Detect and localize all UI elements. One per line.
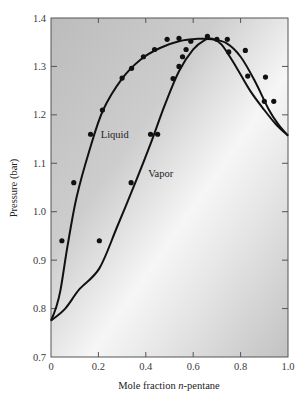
- y-tick-label: 1.3: [33, 61, 46, 72]
- x-tick-label: 0.4: [139, 361, 153, 372]
- data-point: [183, 47, 188, 52]
- x-tick-label: 0.2: [92, 361, 105, 372]
- data-point: [226, 49, 231, 54]
- phase-diagram-chart: 00.20.40.60.81.00.70.80.91.01.11.21.31.4…: [0, 0, 308, 407]
- data-point: [263, 74, 268, 79]
- y-tick-label: 1.4: [33, 13, 47, 24]
- data-point: [180, 54, 185, 59]
- data-point: [188, 39, 193, 44]
- data-point: [155, 132, 160, 137]
- y-axis-title: Pressure (bar): [8, 158, 20, 217]
- data-point: [129, 180, 134, 185]
- y-tick-label: 0.7: [33, 352, 46, 363]
- x-axis-title-part1: Mole fraction: [118, 380, 178, 391]
- data-point: [176, 36, 181, 41]
- y-tick-label: 0.9: [33, 255, 46, 266]
- data-point: [245, 74, 250, 79]
- x-tick-label: 1.0: [281, 361, 294, 372]
- plot-area: [51, 18, 288, 357]
- x-axis-title: Mole fraction n-pentane: [118, 380, 220, 391]
- liquid-label: Liquid: [101, 129, 130, 140]
- data-point: [176, 64, 181, 69]
- x-tick-label: 0.8: [234, 361, 247, 372]
- x-tick-label: 0.6: [187, 361, 200, 372]
- data-point: [141, 54, 146, 59]
- x-axis-title-part3: -pentane: [184, 380, 220, 391]
- y-tick-label: 1.0: [33, 206, 46, 217]
- data-point: [59, 238, 64, 243]
- data-point: [71, 180, 76, 185]
- data-point: [170, 76, 175, 81]
- data-point: [205, 34, 210, 39]
- x-tick-label: 0: [48, 361, 53, 372]
- y-tick-label: 0.8: [33, 303, 46, 314]
- data-point: [262, 99, 267, 104]
- data-point: [271, 99, 276, 104]
- data-point: [225, 37, 230, 42]
- vapor-label: Vapor: [148, 168, 174, 179]
- data-point: [243, 48, 248, 53]
- data-point: [129, 66, 134, 71]
- data-point: [152, 47, 157, 52]
- data-point: [148, 132, 153, 137]
- data-point: [100, 107, 105, 112]
- data-point: [120, 75, 125, 80]
- data-point: [97, 238, 102, 243]
- data-point: [214, 37, 219, 42]
- y-tick-label: 1.2: [33, 109, 46, 120]
- data-point: [88, 132, 93, 137]
- y-tick-label: 1.1: [33, 158, 46, 169]
- data-point: [165, 37, 170, 42]
